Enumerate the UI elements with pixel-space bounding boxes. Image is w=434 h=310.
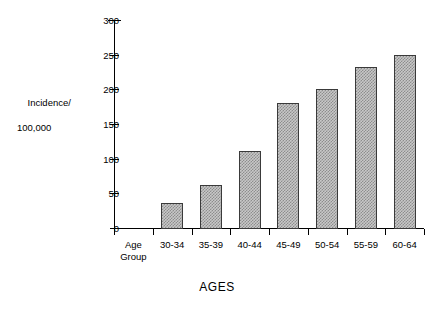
x-axis-category-label-line1: 55-59 <box>354 239 378 250</box>
x-axis-category-label: 30-34 <box>153 239 192 251</box>
x-axis-category-label: 35-39 <box>192 239 231 251</box>
y-axis-label-line1: Incidence/ <box>28 97 71 108</box>
x-axis-category-label-line2: Group <box>114 251 153 263</box>
x-axis-tick <box>424 229 425 235</box>
y-axis-label-line2: 100,000 <box>17 122 89 135</box>
y-axis-label: Incidence/ 100,000 <box>17 84 89 159</box>
x-axis-category-label: 50-54 <box>308 239 347 251</box>
x-axis-category-label: 60-64 <box>385 239 424 251</box>
x-axis-tick <box>385 229 386 235</box>
x-axis-category-label-line1: 45-49 <box>276 239 300 250</box>
bar <box>316 89 338 229</box>
x-axis-category-label-line1: 35-39 <box>199 239 223 250</box>
bar-chart: Incidence/ 100,000 050100150200250300 Ag… <box>0 0 434 310</box>
x-axis-tick <box>153 229 154 235</box>
x-axis-category-label: 45-49 <box>269 239 308 251</box>
x-axis-tick <box>192 229 193 235</box>
x-axis-tick <box>269 229 270 235</box>
x-axis-tick <box>347 229 348 235</box>
x-axis-category-label-line1: Age <box>125 239 142 250</box>
x-axis-category-label-line1: 60-64 <box>392 239 416 250</box>
plot-area <box>114 20 424 229</box>
bar <box>161 203 183 229</box>
x-axis-tick <box>308 229 309 235</box>
bar <box>394 55 416 229</box>
x-axis-category-label-line1: 30-34 <box>160 239 184 250</box>
x-axis-category-label: 55-59 <box>347 239 386 251</box>
x-axis-category-label: 40-44 <box>230 239 269 251</box>
x-axis-category-label: AgeGroup <box>114 239 153 263</box>
bar <box>239 151 261 229</box>
x-axis-tick <box>114 229 115 235</box>
x-axis-title: AGES <box>0 280 434 294</box>
x-axis-category-label-line1: 40-44 <box>237 239 261 250</box>
x-axis-category-label-line1: 50-54 <box>315 239 339 250</box>
bar <box>277 103 299 229</box>
bar <box>355 67 377 229</box>
bar <box>200 185 222 229</box>
x-axis-tick <box>230 229 231 235</box>
